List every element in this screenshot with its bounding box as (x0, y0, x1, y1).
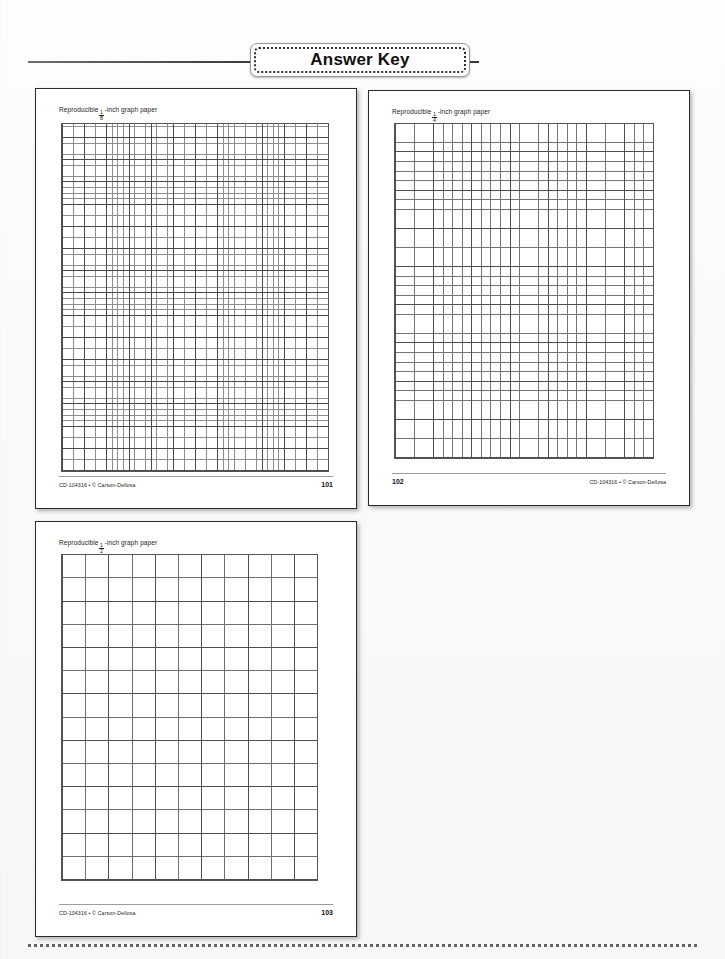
footer-rule (392, 473, 666, 474)
footer-credit: CD-104316 • © Carson-Dellosa (589, 479, 666, 485)
page-title: Answer Key (310, 50, 409, 70)
heading-prefix: Reproducible (59, 539, 99, 546)
page-heading-half: Reproducible12-inch graph paper (59, 539, 157, 554)
heading-suffix: -inch graph paper (105, 539, 158, 546)
footer-credit: CD-104316 • © Carson-Dellosa (59, 482, 136, 488)
heading-suffix: -inch graph paper (438, 108, 491, 115)
page-footer-eighth: CD-104316 • © Carson-Dellosa 101 (59, 476, 333, 494)
page-footer-half: CD-104316 • © Carson-Dellosa 103 (59, 904, 333, 922)
fraction-one-eighth: 18 (99, 110, 104, 122)
workbook-page-eighth-inch: Reproducible18-inch graph paper CD-10431… (35, 88, 357, 509)
footer-page-number: 101 (321, 481, 333, 488)
bottom-dotted-rule (28, 944, 697, 950)
answer-key-title-box: Answer Key (250, 43, 470, 77)
workbook-page-quarter-inch: Reproducible14-inch graph paper 102 CD-1… (368, 90, 690, 506)
fraction-one-quarter: 14 (432, 112, 437, 124)
heading-suffix: -inch graph paper (105, 106, 158, 113)
footer-page-number: 102 (392, 478, 404, 485)
page-heading-quarter: Reproducible14-inch graph paper (392, 108, 490, 123)
graph-grid-eighth-inch (61, 123, 329, 472)
heading-prefix: Reproducible (59, 106, 99, 113)
workbook-page-half-inch: Reproducible12-inch graph paper CD-10431… (35, 521, 357, 937)
footer-page-number: 103 (321, 909, 333, 916)
graph-grid-quarter-inch (394, 123, 654, 459)
fraction-one-half: 12 (99, 543, 104, 555)
footer-credit: CD-104316 • © Carson-Dellosa (59, 910, 136, 916)
footer-rule (59, 476, 333, 477)
graph-grid-half-inch (61, 554, 318, 881)
page-footer-quarter: 102 CD-104316 • © Carson-Dellosa (392, 473, 666, 491)
fraction-denominator: 8 (99, 115, 104, 121)
footer-rule (59, 904, 333, 905)
answer-key-header: Answer Key (0, 40, 725, 80)
heading-prefix: Reproducible (392, 108, 432, 115)
header-rule-left (28, 61, 253, 63)
page-heading-eighth: Reproducible18-inch graph paper (59, 106, 157, 121)
